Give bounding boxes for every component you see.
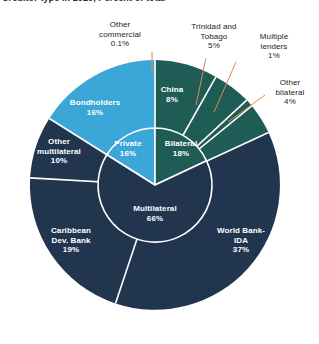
inner-label-private: Private 16%	[104, 139, 152, 158]
inner-label-bilateral: Bilateral 18%	[155, 139, 207, 158]
slice-label-caribbean-dev-bank: Caribbean Dev. Bank 19%	[38, 226, 104, 255]
chart-root: Creditor type in 2020, Percent of total	[0, 0, 319, 344]
slice-label-bondholders: Bondholders 16%	[57, 98, 133, 117]
slice-label-other-multilateral: Other multilateral 10%	[26, 137, 92, 166]
callout-label-trinidad-tobago: Trinidad and Tobago 5%	[182, 22, 246, 51]
slice-label-world-bank-ida: World Bank- IDA 37%	[205, 226, 277, 255]
slice-label-china: China 8%	[150, 85, 194, 104]
callout-label-other-bilateral: Other bilateral 4%	[266, 78, 314, 107]
callout-label-other-commercial: Other commercial 0.1%	[88, 20, 152, 49]
callout-label-multiple-lenders: Multiple lenders 1%	[250, 32, 298, 61]
inner-label-multilateral: Multilateral 66%	[122, 204, 188, 223]
